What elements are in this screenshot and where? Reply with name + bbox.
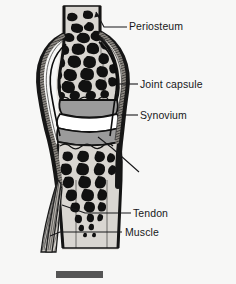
articular-cartilage-upper (59, 100, 117, 118)
label-joint-capsule: Joint capsule (140, 79, 203, 91)
label-tendon: Tendon (133, 208, 168, 220)
label-periosteum: Periosteum (129, 21, 183, 33)
label-muscle: Muscle (125, 227, 159, 239)
scale-bar (56, 271, 103, 278)
label-synovium: Synovium (140, 110, 187, 122)
joint-illustration (0, 0, 236, 284)
synovial-joint-figure: Periosteum Joint capsule Synovium Articu… (0, 0, 236, 284)
